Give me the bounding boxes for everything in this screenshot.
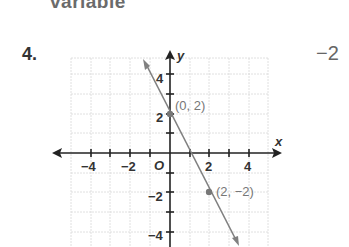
x-tick-label: −4 xyxy=(81,159,97,174)
line-bottom-arrow-icon xyxy=(232,236,239,246)
coordinate-plane: y x O −4 −2 2 4 4 2 −2 −4 (0, 2) (2, −2) xyxy=(0,0,349,247)
point-0-2 xyxy=(167,111,173,117)
x-tick-label: −2 xyxy=(121,159,136,174)
y-tick-label: 2 xyxy=(156,110,163,125)
x-tick-label: 4 xyxy=(244,159,252,174)
y-tick-label: −2 xyxy=(148,189,163,204)
y-tick-label: −4 xyxy=(148,228,164,243)
origin-label: O xyxy=(154,158,164,173)
point-label: (2, −2) xyxy=(216,184,254,199)
x-axis xyxy=(58,149,278,157)
point-label: (0, 2) xyxy=(175,98,205,113)
point-2-neg2 xyxy=(206,189,212,195)
x-tick-label: 2 xyxy=(205,159,212,174)
y-tick-label: 4 xyxy=(156,71,164,86)
y-axis-label: y xyxy=(176,48,185,63)
x-axis-label: x xyxy=(274,134,283,149)
